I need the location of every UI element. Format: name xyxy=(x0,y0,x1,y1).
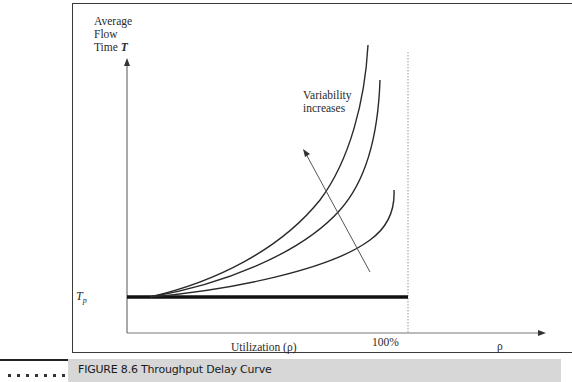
variability-annotation: Variability increases xyxy=(303,89,352,115)
annotation-line-2: increases xyxy=(303,102,352,115)
figure-caption-bar: FIGURE 8.6 Throughput Delay Curve xyxy=(0,359,561,382)
curve-low-variability xyxy=(150,190,394,297)
annotation-line-1: Variability xyxy=(303,89,352,102)
y-label-line-1: Average xyxy=(94,15,132,28)
y-label-line-3: Time xyxy=(94,41,118,53)
x-axis-symbol: ρ xyxy=(497,340,503,353)
y-axis-symbol: T xyxy=(121,41,128,53)
figure-caption: FIGURE 8.6 Throughput Delay Curve xyxy=(78,363,272,376)
x-axis-100-marker: 100% xyxy=(372,336,399,349)
variability-arrowhead-icon xyxy=(303,149,310,157)
x-axis-label: Utilization (ρ) xyxy=(231,341,296,354)
baseline-label: Tp xyxy=(76,290,87,307)
y-axis-label: Average Flow Time T xyxy=(94,15,132,54)
caption-dots-decoration xyxy=(0,361,68,382)
x-axis-arrow-icon xyxy=(538,330,546,336)
y-axis-arrow-icon xyxy=(124,58,130,66)
y-label-line-2: Flow xyxy=(94,28,132,41)
